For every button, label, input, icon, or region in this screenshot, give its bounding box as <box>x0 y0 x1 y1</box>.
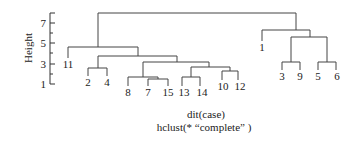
leaf-labels: 11 2 4 8 7 15 13 14 10 12 1 3 9 5 6 <box>63 41 341 98</box>
leaf-1: 1 <box>259 41 265 53</box>
x-axis-label: dit(case) <box>187 108 225 121</box>
leaf-6: 6 <box>334 70 340 82</box>
tick-1: 1 <box>41 78 47 90</box>
leaf-12: 12 <box>235 80 246 92</box>
leaf-10: 10 <box>218 80 230 92</box>
method-label: hclust(* “complete” ) <box>157 121 252 134</box>
leaf-9: 9 <box>297 70 303 82</box>
leaf-3: 3 <box>279 70 285 82</box>
y-axis-label: Height <box>22 33 34 63</box>
leaf-5: 5 <box>315 70 321 82</box>
leaf-13: 13 <box>179 86 191 98</box>
leaf-15: 15 <box>163 86 175 98</box>
leaf-8: 8 <box>125 86 131 98</box>
leaf-2: 2 <box>85 76 91 88</box>
leaf-7: 7 <box>145 86 151 98</box>
y-axis <box>50 13 55 84</box>
leaf-11: 11 <box>63 58 74 70</box>
tick-7: 7 <box>41 17 47 29</box>
tick-5: 5 <box>41 37 47 49</box>
dendrogram-plot: 7 5 3 1 Height 11 2 4 <box>0 0 361 141</box>
tick-3: 3 <box>41 58 47 70</box>
leaf-4: 4 <box>104 76 110 88</box>
leaf-14: 14 <box>197 86 209 98</box>
